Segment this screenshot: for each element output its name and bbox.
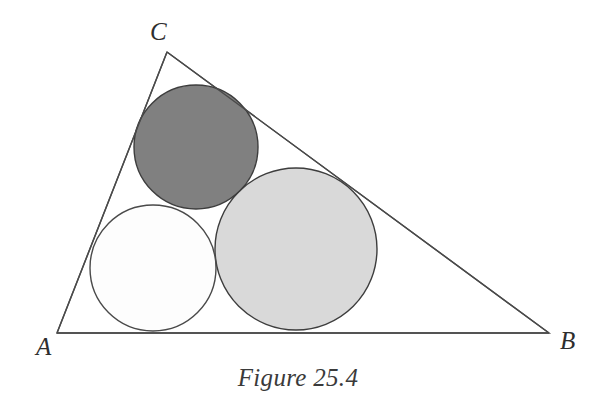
vertex-label-c: C — [150, 18, 167, 45]
vertex-label-a: A — [34, 333, 52, 360]
figure-container: A B C Figure 25.4 — [0, 0, 596, 409]
figure-caption: Figure 25.4 — [237, 364, 358, 391]
geometry-diagram: A B C Figure 25.4 — [0, 0, 596, 409]
dark-gray-circle — [134, 85, 258, 209]
white-circle — [90, 205, 216, 331]
vertex-label-b: B — [560, 327, 575, 354]
